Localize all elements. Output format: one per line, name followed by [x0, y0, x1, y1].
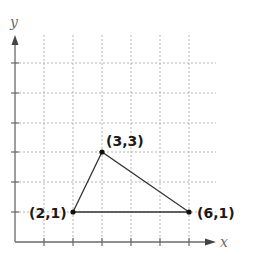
y-axis-arrow-icon	[12, 35, 19, 45]
point-label-3-3: (3,3)	[106, 133, 144, 149]
y-axis-label: y	[9, 14, 19, 30]
point-label-6-1: (6,1)	[197, 205, 235, 221]
coordinate-plane: y x (2,1) (3,3) (6,1)	[0, 0, 263, 261]
point-6-1	[186, 209, 191, 214]
x-axis-label: x	[220, 234, 228, 250]
point-label-2-1: (2,1)	[29, 205, 67, 221]
point-2-1	[70, 209, 75, 214]
x-axis-arrow-icon	[205, 239, 216, 246]
point-3-3	[99, 149, 104, 154]
